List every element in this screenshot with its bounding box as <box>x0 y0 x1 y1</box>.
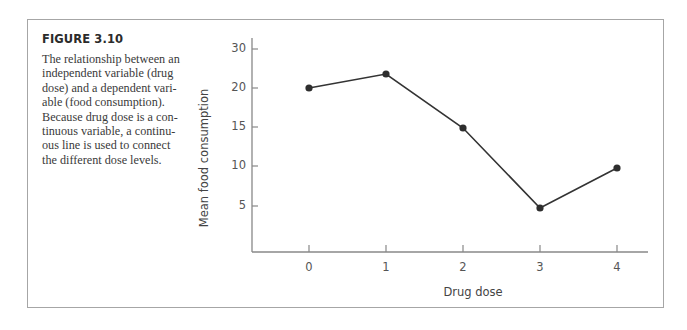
y-axis-label: Mean food consumption <box>197 58 211 258</box>
data-point <box>613 164 620 171</box>
data-point <box>305 84 312 91</box>
x-tick-label: 4 <box>607 260 627 274</box>
x-tick-label: 1 <box>376 260 396 274</box>
line-chart <box>0 0 687 330</box>
axes <box>252 38 648 252</box>
y-ticks <box>252 49 258 206</box>
y-tick-label: 20 <box>226 80 246 94</box>
data-point <box>382 70 389 77</box>
y-tick-label: 30 <box>226 41 246 55</box>
x-tick-label: 2 <box>453 260 473 274</box>
x-axis-label: Drug dose <box>413 285 533 299</box>
data-point <box>459 124 466 131</box>
x-tick-label: 3 <box>530 260 550 274</box>
y-tick-label: 5 <box>226 198 246 212</box>
y-tick-label: 15 <box>226 119 246 133</box>
x-ticks <box>309 245 617 252</box>
data-point <box>536 204 543 211</box>
y-tick-label: 10 <box>226 158 246 172</box>
y-axis-label-wrap: Mean food consumption <box>197 58 213 258</box>
data-line <box>309 74 617 208</box>
x-tick-label: 0 <box>299 260 319 274</box>
